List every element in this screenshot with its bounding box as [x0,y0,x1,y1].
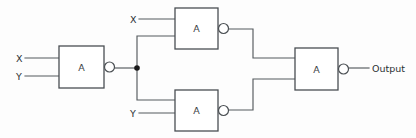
gate-3-label: A [193,105,200,116]
junction-branch-down [137,68,175,100]
junction-branch-up [137,36,175,68]
input-x-1-label: X [16,53,23,64]
gate-2-label: A [193,23,200,34]
gate-3-inversion-bubble [219,106,229,116]
output-terminal-label: Output [372,63,405,74]
gate-4-inversion-bubble [339,64,349,74]
gate-1-inversion-bubble [105,62,115,72]
input-y-2-label: Y [129,108,136,119]
circuit-diagram-canvas: XYXYAAAAOutput [0,0,416,138]
input-y-1-label: Y [15,71,22,82]
fanout-node [134,65,140,71]
gate-2-inversion-bubble [219,24,229,34]
circuit-svg: XYXYAAAAOutput [0,0,416,138]
gate-1-label: A [78,62,85,73]
g3-out-to-g4 [224,79,295,110]
gates-layer [59,8,349,131]
gate-4-label: A [313,64,320,75]
g2-out-to-g4 [224,29,295,58]
input-x-2-label: X [130,14,137,25]
